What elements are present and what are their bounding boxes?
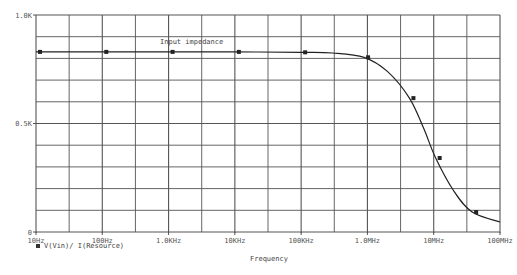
data-marker — [237, 50, 241, 54]
x-tick-label: 1.0KHz — [156, 237, 181, 245]
data-marker — [104, 50, 108, 54]
x-tick-label: 10Hz — [28, 237, 45, 245]
data-marker — [438, 156, 442, 160]
plot-grid — [36, 15, 500, 233]
chart-annotation: Input impedance — [160, 38, 223, 46]
data-marker — [366, 55, 370, 59]
data-marker — [38, 50, 42, 54]
y-tick-label: 1.0K — [15, 12, 33, 20]
x-tick-label: 1.0MHz — [355, 237, 380, 245]
x-tick-label: 10MHz — [423, 237, 444, 245]
legend-label: V(Vin)/ I(Resource) — [44, 242, 124, 250]
y-tick-label: 0 — [28, 229, 32, 237]
impedance-chart: 10Hz100Hz1.0KHz10KHz100KHz1.0MHz10MHz100… — [0, 0, 517, 275]
data-marker — [171, 50, 175, 54]
x-tick-label: 100KHz — [288, 237, 313, 245]
legend-marker-icon — [36, 244, 40, 248]
x-tick-label: 100MHz — [487, 237, 512, 245]
y-tick-label: 0.5K — [15, 120, 33, 128]
data-marker — [411, 96, 415, 100]
x-axis-label: Frequency — [250, 255, 288, 263]
data-marker — [474, 210, 478, 214]
x-tick-label: 10KHz — [224, 237, 245, 245]
data-marker — [303, 50, 307, 54]
